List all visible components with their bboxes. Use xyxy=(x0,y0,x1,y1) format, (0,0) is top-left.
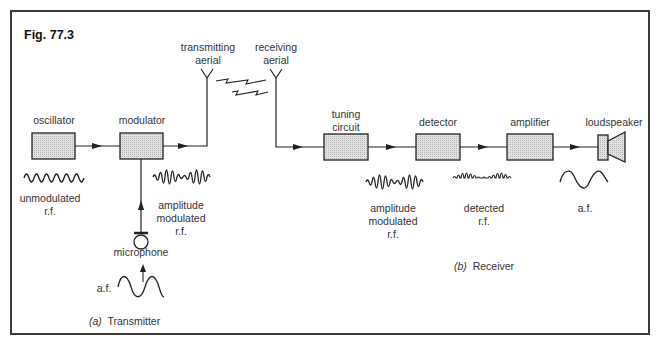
rx-am-rf-label: amplitude modulated r.f. xyxy=(368,202,417,241)
receiving-aerial-icon xyxy=(270,69,282,78)
amplifier-label: amplifier xyxy=(510,116,550,129)
af-output-label: a.f. xyxy=(578,202,593,215)
arrow-icon xyxy=(138,200,144,210)
tuning-circuit-label: tuning circuit xyxy=(332,108,361,134)
arrow-icon xyxy=(478,144,488,150)
loudspeaker-icon xyxy=(598,132,625,162)
transmitter-caption: (a) Transmitter xyxy=(89,315,160,327)
arrow-icon xyxy=(293,144,303,150)
transmitting-aerial-label: transmitting aerial xyxy=(181,41,235,67)
receiver-caption: (b) Receiver xyxy=(454,260,514,272)
amplifier-block xyxy=(507,134,553,160)
transmitting-aerial-icon xyxy=(201,69,213,78)
oscillator-block xyxy=(32,133,75,159)
am-rf-wave-icon xyxy=(153,170,210,184)
af-input-label: a.f. xyxy=(97,282,112,295)
af-input-wave-icon xyxy=(118,277,164,298)
received-am-rf-wave-icon xyxy=(366,175,423,189)
unmodulated-rf-wave-icon xyxy=(24,174,84,182)
detected-rf-wave-icon xyxy=(453,173,511,178)
detected-rf-label: detected r.f. xyxy=(464,202,504,228)
tuning-circuit-block xyxy=(324,134,368,160)
arrow-icon xyxy=(140,264,146,272)
aerial-to-tuning-wire xyxy=(276,78,324,147)
af-output-wave-icon xyxy=(560,171,608,188)
arrow-icon xyxy=(92,143,102,149)
receiving-aerial-label: receiving aerial xyxy=(255,41,297,67)
radio-waves-icon xyxy=(216,79,268,95)
mod-to-aerial-wire xyxy=(163,78,207,146)
unmodulated-rf-label: unmodulated r.f. xyxy=(20,192,81,218)
arrow-icon xyxy=(386,144,396,150)
oscillator-label: oscillator xyxy=(33,114,74,127)
tx-am-rf-label: amplitude modulated r.f. xyxy=(156,199,205,238)
modulator-label: modulator xyxy=(119,114,166,127)
arrow-icon xyxy=(178,143,188,149)
detector-block xyxy=(416,134,460,160)
arrow-icon xyxy=(570,144,580,150)
detector-label: detector xyxy=(419,116,457,129)
loudspeaker-label: loudspeaker xyxy=(585,116,642,129)
modulator-block xyxy=(120,133,163,159)
microphone-label: microphone xyxy=(114,246,169,259)
